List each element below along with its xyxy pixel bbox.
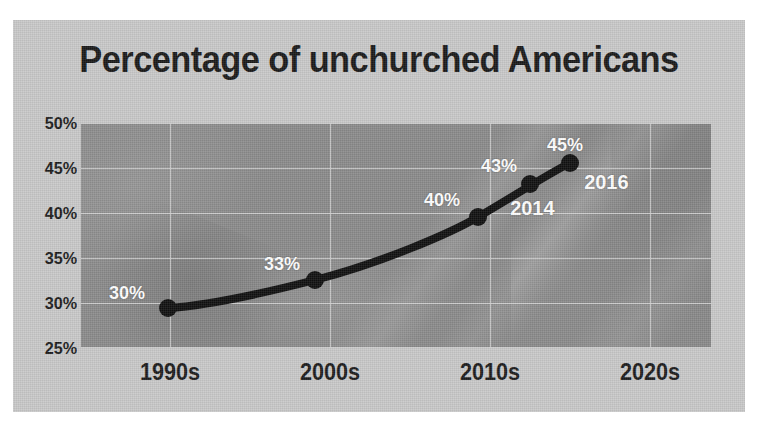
data-label-45: 45% bbox=[547, 135, 583, 154]
x-tick-label: 2010s bbox=[434, 358, 547, 386]
data-label-40: 40% bbox=[424, 190, 460, 209]
data-point-marker bbox=[159, 299, 177, 317]
x-tick-label: 1990s bbox=[114, 358, 227, 386]
x-axis: 1990s 2000s 2010s 2020s bbox=[81, 358, 711, 392]
data-label-33: 33% bbox=[264, 254, 300, 273]
y-tick-label: 45% bbox=[24, 160, 77, 177]
year-label-2016: 2016 bbox=[584, 171, 628, 192]
y-tick-label: 30% bbox=[24, 295, 77, 312]
series-line-unchurched bbox=[81, 123, 711, 348]
data-point-marker bbox=[521, 175, 539, 193]
data-point-marker bbox=[306, 271, 324, 289]
data-label-30: 30% bbox=[109, 283, 145, 302]
chart-panel: Percentage of unchurched Americans 50% 4… bbox=[13, 20, 745, 412]
data-label-43: 43% bbox=[481, 156, 517, 175]
data-point-marker bbox=[469, 208, 487, 226]
x-tick-label: 2000s bbox=[274, 358, 387, 386]
chart-title: Percentage of unchurched Americans bbox=[39, 38, 720, 82]
y-tick-label: 40% bbox=[24, 205, 77, 222]
y-tick-label: 35% bbox=[24, 250, 77, 267]
plot-area: 30% 33% 40% 43% 45% 2014 2016 bbox=[81, 123, 711, 348]
year-label-2014: 2014 bbox=[510, 197, 554, 218]
y-tick-label: 50% bbox=[24, 115, 77, 132]
y-axis: 50% 45% 40% 35% 30% 25% bbox=[17, 123, 77, 348]
x-tick-label: 2020s bbox=[594, 358, 707, 386]
y-tick-label: 25% bbox=[24, 340, 77, 357]
data-point-marker bbox=[561, 154, 579, 172]
